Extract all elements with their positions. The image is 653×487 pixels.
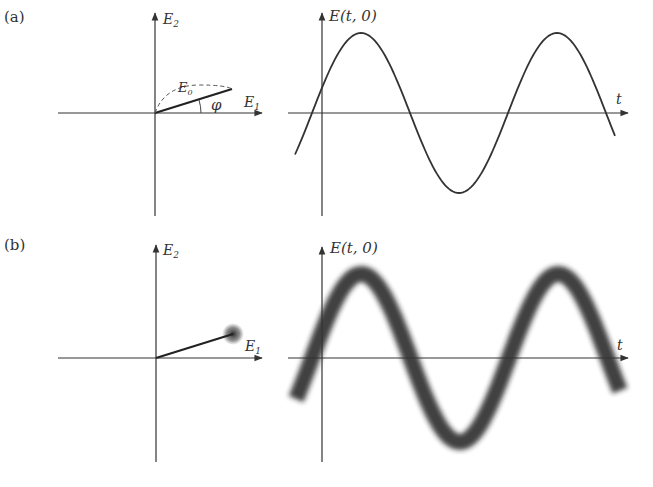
t-axis-label: t bbox=[617, 337, 623, 353]
e2-label: E2 bbox=[162, 11, 179, 29]
panel-b-label: (b) bbox=[4, 236, 25, 254]
e-axis-label: E(t, 0) bbox=[328, 7, 377, 25]
e0-label: E0 bbox=[177, 80, 193, 97]
phasor-diagram-b: E2 E1 bbox=[58, 242, 262, 462]
wave-plot-a: E(t, 0) t bbox=[288, 7, 628, 216]
panel-b: (b) E2 E1 E(t, 0) t bbox=[4, 236, 628, 462]
panel-a-label: (a) bbox=[4, 8, 25, 26]
e1-label: E1 bbox=[243, 94, 260, 112]
e2-label: E2 bbox=[162, 242, 179, 260]
noisy-vector bbox=[156, 334, 233, 358]
e1-label: E1 bbox=[244, 338, 261, 356]
wave-plot-b: E(t, 0) t bbox=[288, 239, 628, 462]
panel-a: (a) E2 E1 E0 φ E(t, 0) t bbox=[4, 7, 628, 216]
phi-label: φ bbox=[211, 96, 222, 114]
t-axis-label: t bbox=[616, 91, 622, 107]
phasor-diagram-a: E2 E1 E0 φ bbox=[58, 11, 262, 216]
figure: (a) E2 E1 E0 φ E(t, 0) t (b) E2 bbox=[0, 0, 653, 487]
e-axis-label: E(t, 0) bbox=[329, 239, 378, 257]
angle-arc bbox=[199, 100, 201, 113]
